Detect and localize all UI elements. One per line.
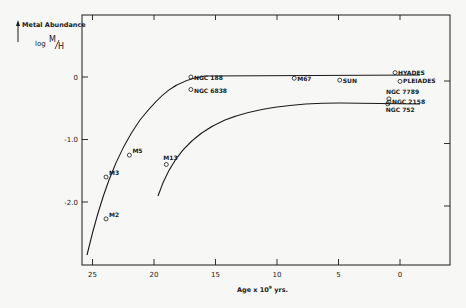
point-marker-icon bbox=[104, 175, 108, 179]
y-tick-labels: 0-1.0-2.0 bbox=[64, 74, 78, 207]
point-label: HYADES bbox=[398, 69, 425, 76]
chart-title: Metal Abundance bbox=[22, 21, 86, 29]
point-marker-icon bbox=[338, 78, 342, 82]
up-arrow-icon bbox=[16, 20, 20, 26]
chart-canvas: Metal Abundance log M H 2520151050 0-1.0… bbox=[0, 0, 466, 308]
x-tick-label: 10 bbox=[273, 271, 282, 279]
y-tick-label: -2.0 bbox=[64, 199, 78, 207]
y-tick-label: -1.0 bbox=[64, 136, 78, 144]
point-label: NGC 2158 bbox=[392, 98, 425, 105]
x-tick-label: 20 bbox=[150, 271, 159, 279]
point-marker-icon bbox=[398, 79, 402, 83]
point-label: M67 bbox=[297, 75, 311, 82]
point-label: M5 bbox=[132, 147, 142, 154]
point-label: SUN bbox=[343, 77, 357, 84]
data-point: SUN bbox=[338, 77, 357, 84]
title-block: Metal Abundance log M H bbox=[16, 20, 86, 51]
xlabel-text: Age x 10 bbox=[237, 286, 269, 294]
xlabel-suffix: yrs. bbox=[272, 286, 288, 294]
x-tick-labels: 2520151050 bbox=[88, 271, 402, 279]
point-label: M2 bbox=[109, 211, 119, 218]
point-label: M3 bbox=[109, 169, 119, 176]
data-point: M67 bbox=[292, 75, 311, 82]
lower-curve bbox=[158, 103, 420, 196]
plot-frame bbox=[82, 15, 450, 265]
data-point: NGC 188 bbox=[189, 74, 223, 81]
x-tick-label: 15 bbox=[211, 271, 220, 279]
point-label: NGC 752 bbox=[386, 106, 415, 113]
data-point: M5 bbox=[127, 147, 142, 157]
point-label: NGC 188 bbox=[194, 74, 223, 81]
point-marker-icon bbox=[393, 71, 397, 75]
data-point: NGC 2158 bbox=[387, 98, 425, 105]
data-point: HYADES bbox=[393, 69, 425, 76]
data-point: PLEIADES bbox=[398, 77, 436, 84]
y-tick-label: 0 bbox=[74, 74, 78, 82]
ylabel-log: log bbox=[35, 40, 46, 48]
data-points: M2M3M5M13NGC 188NGC 6838M67SUNHYADESPLEI… bbox=[104, 69, 436, 221]
x-axis-label: Age x 109 yrs. bbox=[237, 285, 288, 294]
x-ticks bbox=[93, 15, 401, 265]
point-marker-icon bbox=[189, 75, 193, 79]
x-tick-label: 5 bbox=[336, 271, 340, 279]
ylabel-m: M bbox=[49, 35, 56, 44]
y-ticks bbox=[82, 77, 450, 206]
point-label: NGC 7789 bbox=[386, 88, 419, 95]
upper-curve bbox=[87, 75, 420, 255]
ylabel-h: H bbox=[58, 42, 64, 51]
data-point: NGC 6838 bbox=[189, 87, 227, 94]
point-marker-icon bbox=[292, 76, 296, 80]
data-point: M2 bbox=[104, 211, 119, 221]
point-label: M13 bbox=[163, 154, 177, 161]
point-marker-icon bbox=[104, 217, 108, 221]
point-label: PLEIADES bbox=[403, 77, 436, 84]
point-marker-icon bbox=[164, 163, 168, 167]
data-point: M3 bbox=[104, 169, 119, 179]
point-marker-icon bbox=[127, 153, 131, 157]
x-tick-label: 0 bbox=[398, 271, 402, 279]
point-label: NGC 6838 bbox=[194, 87, 227, 94]
x-tick-label: 25 bbox=[88, 271, 97, 279]
point-marker-icon bbox=[189, 88, 193, 92]
data-point: M13 bbox=[163, 154, 177, 167]
